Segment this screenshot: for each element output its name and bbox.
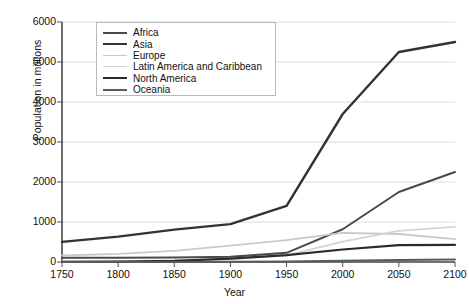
legend-label: Asia <box>133 39 152 50</box>
legend-swatch-icon <box>103 55 127 56</box>
legend-item[interactable]: North America <box>103 73 275 84</box>
legend-swatch-icon <box>103 66 127 67</box>
legend-item[interactable]: Africa <box>103 27 275 38</box>
legend-swatch-icon <box>103 32 127 34</box>
legend-label: Europe <box>133 50 165 61</box>
legend-swatch-icon <box>103 43 127 45</box>
legend-swatch-icon <box>103 89 127 91</box>
legend-label: Oceania <box>133 84 170 95</box>
chart-legend: AfricaAsiaEuropeLatin America and Caribb… <box>96 22 276 96</box>
legend-label: Latin America and Caribbean <box>133 61 262 72</box>
legend-swatch-icon <box>103 77 127 79</box>
legend-item[interactable]: Oceania <box>103 84 275 95</box>
population-line-chart: Population in millions Year 010002000300… <box>0 0 469 304</box>
legend-label: North America <box>133 73 196 84</box>
legend-label: Africa <box>133 27 159 38</box>
legend-item[interactable]: Europe <box>103 50 275 61</box>
legend-item[interactable]: Latin America and Caribbean <box>103 61 275 72</box>
legend-item[interactable]: Asia <box>103 38 275 49</box>
